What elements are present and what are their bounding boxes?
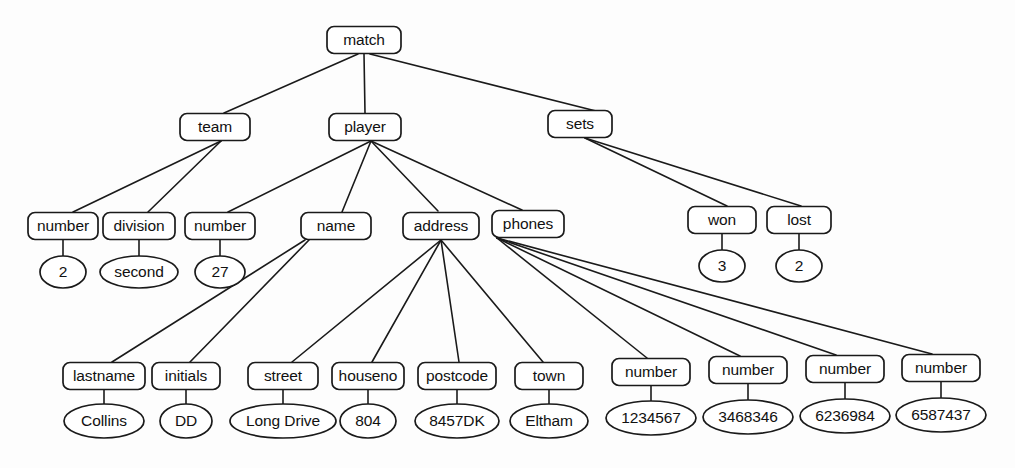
node-v3468346[interactable]: 3468346 bbox=[703, 400, 793, 434]
node-val3[interactable]: 3 bbox=[699, 250, 745, 282]
node-division[interactable]: division bbox=[103, 213, 175, 240]
node-v804[interactable]: 804 bbox=[340, 404, 396, 438]
edge-phones-to-ph1 bbox=[497, 238, 647, 358]
node-label-v6236984: 6236984 bbox=[815, 407, 875, 424]
node-label-town: town bbox=[533, 367, 565, 384]
node-label-vcollins: Collins bbox=[81, 412, 127, 429]
node-valsecond[interactable]: second bbox=[100, 256, 178, 288]
tree-diagram-canvas: matchteamplayersetsnumberdivisionnumbern… bbox=[0, 0, 1015, 468]
node-label-sets: sets bbox=[566, 115, 594, 132]
edge-match-to-team bbox=[224, 54, 358, 113]
node-label-vallost2: 2 bbox=[795, 257, 804, 274]
edge-team-to-division bbox=[148, 141, 221, 212]
node-label-playernumber: number bbox=[194, 217, 246, 234]
node-label-division: division bbox=[114, 217, 165, 234]
node-label-v8457dk: 8457DK bbox=[429, 412, 485, 429]
node-label-valsecond: second bbox=[114, 263, 163, 280]
node-label-vdd: DD bbox=[175, 412, 197, 429]
node-label-ph1: number bbox=[625, 363, 677, 380]
node-label-street: street bbox=[264, 367, 303, 384]
node-val2[interactable]: 2 bbox=[40, 256, 86, 288]
node-label-v3468346: 3468346 bbox=[718, 408, 778, 425]
node-player[interactable]: player bbox=[329, 114, 401, 141]
node-v6236984[interactable]: 6236984 bbox=[800, 399, 890, 433]
edge-match-to-player bbox=[364, 54, 365, 113]
node-label-lost: lost bbox=[787, 211, 812, 228]
node-label-player: player bbox=[344, 118, 386, 135]
node-label-teamnumber: number bbox=[37, 217, 89, 234]
edge-player-to-address bbox=[371, 141, 438, 211]
node-label-postcode: postcode bbox=[426, 367, 488, 384]
node-label-val27: 27 bbox=[211, 263, 228, 280]
node-ph3[interactable]: number bbox=[806, 356, 884, 383]
node-initials[interactable]: initials bbox=[152, 363, 220, 390]
node-lastname[interactable]: lastname bbox=[63, 363, 145, 390]
node-label-val3: 3 bbox=[718, 257, 727, 274]
edge-player-to-phones bbox=[371, 141, 522, 210]
node-label-veltham: Eltham bbox=[525, 412, 573, 429]
edge-address-to-street bbox=[292, 240, 441, 362]
edge-player-to-playernumber bbox=[228, 141, 371, 212]
node-lost[interactable]: lost bbox=[767, 207, 831, 234]
node-label-team: team bbox=[198, 118, 232, 135]
node-match[interactable]: match bbox=[327, 27, 401, 54]
node-label-v1234567: 1234567 bbox=[621, 409, 681, 426]
node-label-ph4: number bbox=[915, 359, 967, 376]
node-sets[interactable]: sets bbox=[548, 111, 612, 138]
node-ph4[interactable]: number bbox=[902, 355, 980, 382]
edge-sets-to-won bbox=[585, 138, 727, 206]
node-address[interactable]: address bbox=[403, 213, 479, 240]
node-v8457dk[interactable]: 8457DK bbox=[415, 404, 499, 438]
node-vlongdrive[interactable]: Long Drive bbox=[230, 404, 336, 438]
node-label-address: address bbox=[414, 217, 469, 234]
node-label-won: won bbox=[707, 211, 736, 228]
node-street[interactable]: street bbox=[248, 363, 318, 390]
node-ph2[interactable]: number bbox=[709, 357, 787, 384]
node-label-match: match bbox=[343, 31, 385, 48]
node-label-v804: 804 bbox=[355, 412, 381, 429]
node-label-vlongdrive: Long Drive bbox=[246, 412, 320, 429]
node-label-houseno: houseno bbox=[339, 367, 398, 384]
node-postcode[interactable]: postcode bbox=[418, 363, 496, 390]
node-label-v6587437: 6587437 bbox=[911, 406, 971, 423]
node-ph1[interactable]: number bbox=[612, 359, 690, 386]
node-houseno[interactable]: houseno bbox=[332, 363, 404, 390]
node-won[interactable]: won bbox=[688, 207, 756, 234]
edge-address-to-houseno bbox=[372, 240, 441, 362]
node-vcollins[interactable]: Collins bbox=[64, 404, 144, 438]
node-label-name: name bbox=[317, 217, 355, 234]
node-label-initials: initials bbox=[165, 367, 208, 384]
node-town[interactable]: town bbox=[515, 363, 583, 390]
node-playernumber[interactable]: number bbox=[185, 213, 255, 240]
node-vallost2[interactable]: 2 bbox=[776, 250, 822, 282]
edge-sets-to-lost bbox=[585, 138, 801, 206]
node-val27[interactable]: 27 bbox=[195, 256, 245, 288]
node-veltham[interactable]: Eltham bbox=[510, 404, 588, 438]
edge-player-to-name bbox=[342, 141, 371, 212]
edge-team-to-teamnumber bbox=[73, 141, 221, 212]
node-vdd[interactable]: DD bbox=[160, 404, 212, 438]
node-name[interactable]: name bbox=[301, 213, 371, 240]
node-label-lastname: lastname bbox=[73, 367, 135, 384]
edge-match-to-sets bbox=[370, 54, 596, 111]
node-phones[interactable]: phones bbox=[492, 211, 564, 238]
node-teamnumber[interactable]: number bbox=[28, 213, 98, 240]
node-label-phones: phones bbox=[503, 215, 554, 232]
node-label-val2: 2 bbox=[59, 263, 68, 280]
node-label-ph3: number bbox=[819, 360, 871, 377]
node-team[interactable]: team bbox=[180, 114, 250, 141]
node-v6587437[interactable]: 6587437 bbox=[896, 398, 986, 432]
node-label-ph2: number bbox=[722, 361, 774, 378]
node-v1234567[interactable]: 1234567 bbox=[606, 401, 696, 435]
